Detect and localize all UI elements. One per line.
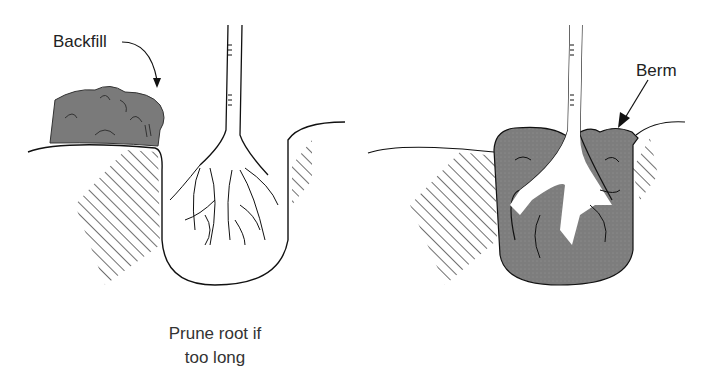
diagram-canvas [0,0,706,384]
backfill-label: Backfill [53,32,107,52]
caption-line-1: Prune root if [140,322,290,346]
prune-caption: Prune root if too long [140,322,290,370]
caption-line-2: too long [140,346,290,370]
berm-label: Berm [636,61,677,81]
left-panel [28,25,345,285]
